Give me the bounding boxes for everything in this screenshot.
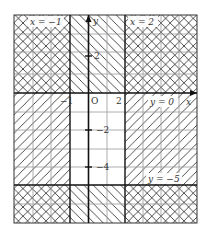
origin-label: O [91, 96, 98, 106]
axis-label-x: x [186, 97, 191, 107]
tick-label-y-2: 2 [94, 51, 100, 61]
tick-label-x-2: 2 [116, 96, 122, 106]
tick-label-x-neg1: −1 [60, 96, 73, 106]
label-x-2: x = 2 [130, 17, 154, 27]
axis-label-y: y [92, 16, 99, 26]
tick-label-y-neg4: −4 [96, 162, 110, 172]
label-y-0: y = 0 [149, 97, 174, 107]
region-graph: x = −1 x = 2 y = 0 y = −5 x y O −1 2 2 −… [0, 0, 209, 237]
label-x-neg1: x = −1 [30, 17, 62, 27]
tick-label-y-neg2: −2 [96, 125, 109, 135]
hatch-x-le-neg1 [14, 15, 70, 223]
label-y-neg5: y = −5 [147, 174, 180, 184]
